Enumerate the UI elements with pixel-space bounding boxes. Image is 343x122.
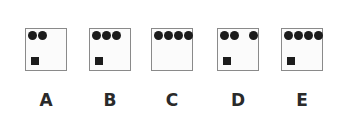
circle-icon (174, 31, 183, 40)
option-label: D (223, 90, 253, 110)
circle-icon (294, 31, 303, 40)
circle-icon (304, 31, 313, 40)
circle-icon (230, 31, 239, 40)
option-label: A (31, 90, 61, 110)
circle-icon (112, 31, 121, 40)
square-icon (287, 57, 295, 65)
square-icon (95, 57, 103, 65)
circle-icon (164, 31, 173, 40)
option-panel-d[interactable] (217, 28, 259, 71)
option-label: B (95, 90, 125, 110)
circle-icon (28, 31, 37, 40)
circle-icon (314, 31, 323, 40)
circle-icon (284, 31, 293, 40)
circle-icon (220, 31, 229, 40)
circle-icon (38, 31, 47, 40)
circle-icon (184, 31, 193, 40)
option-panel-a[interactable] (25, 28, 67, 71)
option-panel-e[interactable] (281, 28, 323, 71)
circle-icon (92, 31, 101, 40)
circle-icon (249, 31, 258, 40)
option-label: E (287, 90, 317, 110)
option-panel-c[interactable] (151, 28, 193, 71)
option-panel-b[interactable] (89, 28, 131, 71)
option-label: C (157, 90, 187, 110)
square-icon (223, 57, 231, 65)
circle-icon (102, 31, 111, 40)
circle-icon (154, 31, 163, 40)
square-icon (31, 57, 39, 65)
